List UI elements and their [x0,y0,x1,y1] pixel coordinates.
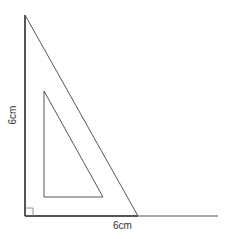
horizontal-side-label: 6cm [113,221,132,231]
set-square-diagram [0,0,229,239]
inner-triangle [44,91,103,197]
vertical-side-label: 6cm [8,106,18,125]
right-angle-marker [25,208,33,216]
outer-triangle [25,15,138,216]
